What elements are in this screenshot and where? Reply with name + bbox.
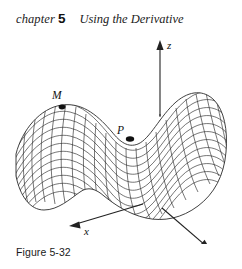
figure-caption: Figure 5-32 bbox=[16, 246, 71, 259]
figure-illustration: z y x M P bbox=[0, 26, 242, 244]
saddle-surface-mesh bbox=[10, 92, 232, 240]
x-axis-label: x bbox=[83, 225, 89, 237]
z-axis: z bbox=[156, 39, 172, 116]
saddle-point-label: P bbox=[116, 124, 124, 136]
z-axis-label: z bbox=[166, 39, 172, 51]
chapter-running-head: chapter5Using the Derivative bbox=[16, 10, 184, 26]
chapter-number: 5 bbox=[58, 11, 66, 26]
local-maximum-label: M bbox=[51, 89, 63, 101]
chapter-word: chapter bbox=[16, 12, 55, 26]
chapter-title: Using the Derivative bbox=[79, 12, 183, 26]
saddle-surface-figure: z y x M P bbox=[0, 26, 242, 244]
